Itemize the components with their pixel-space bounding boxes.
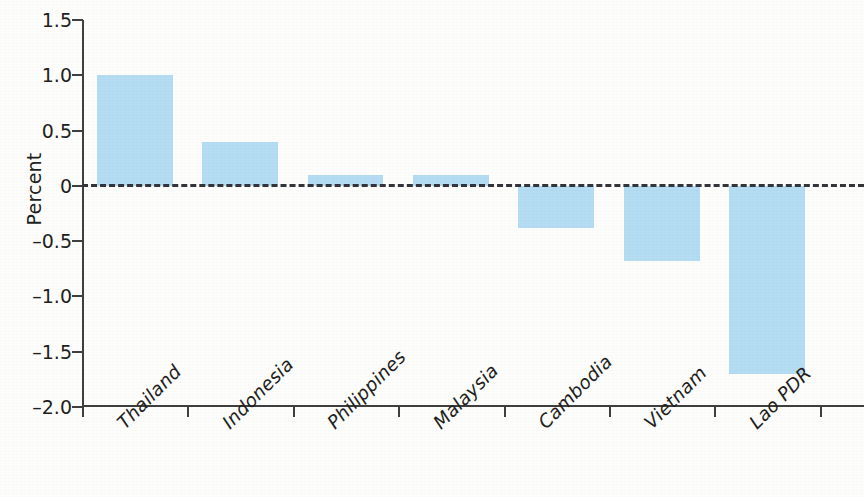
x-tick-mark bbox=[504, 406, 506, 417]
y-tick-mark bbox=[72, 406, 83, 408]
x-tick-mark bbox=[187, 406, 189, 417]
y-tick-mark bbox=[72, 240, 83, 242]
y-tick-label: 0 bbox=[14, 175, 72, 197]
bar bbox=[624, 186, 700, 261]
x-tick-mark bbox=[398, 406, 400, 417]
y-tick-mark bbox=[72, 351, 83, 353]
bar bbox=[97, 75, 173, 186]
bar bbox=[518, 186, 594, 228]
y-tick-mark bbox=[72, 74, 83, 76]
y-tick-label: 1.0 bbox=[14, 64, 72, 86]
y-tick-label: –2.0 bbox=[14, 396, 72, 418]
x-tick-mark bbox=[820, 406, 822, 417]
x-tick-mark bbox=[609, 406, 611, 417]
y-tick-mark bbox=[72, 185, 83, 187]
bar bbox=[729, 186, 805, 374]
y-tick-mark bbox=[72, 19, 83, 21]
plot-area bbox=[82, 20, 864, 407]
y-axis-ticks: 1.51.00.50–0.5–1.0–1.5–2.0 bbox=[14, 0, 72, 497]
y-tick-mark bbox=[72, 295, 83, 297]
y-tick-label: 1.5 bbox=[14, 9, 72, 31]
y-tick-mark bbox=[72, 130, 83, 132]
bar-chart: Percent 1.51.00.50–0.5–1.0–1.5–2.0 Thail… bbox=[0, 0, 864, 497]
x-tick-mark bbox=[714, 406, 716, 417]
x-tick-mark bbox=[293, 406, 295, 417]
y-tick-label: –1.0 bbox=[14, 285, 72, 307]
zero-reference-line bbox=[82, 184, 864, 187]
bar bbox=[202, 142, 278, 186]
y-tick-label: –0.5 bbox=[14, 230, 72, 252]
y-tick-label: –1.5 bbox=[14, 341, 72, 363]
y-tick-label: 0.5 bbox=[14, 120, 72, 142]
